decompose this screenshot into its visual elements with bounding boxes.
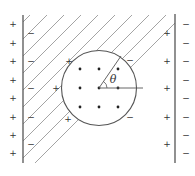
outer-right-charge: − — [182, 112, 190, 122]
outer-left-charge: + — [9, 38, 17, 48]
cavity-surface-charge: + — [52, 83, 60, 93]
field-point — [98, 106, 101, 109]
angle-arc — [104, 81, 108, 88]
inner-right-charge: + — [163, 28, 171, 38]
outer-right-charge: − — [182, 38, 190, 48]
cavity-surface-charge: − — [126, 55, 134, 65]
outer-left-charge: + — [9, 112, 17, 122]
outer-right-charge: − — [182, 148, 190, 158]
hatch-line — [0, 15, 132, 163]
outer-left-charge: + — [9, 148, 17, 158]
hatch-line — [18, 15, 166, 163]
field-point — [79, 106, 82, 109]
inner-left-charge: − — [27, 28, 35, 38]
inner-right-charge: + — [163, 112, 171, 122]
cavity-surface-charge: + — [65, 56, 73, 66]
outer-right-charge: − — [182, 93, 190, 103]
outer-right-charge: − — [182, 19, 190, 29]
inner-right-charge: + — [163, 139, 171, 149]
field-point — [117, 68, 120, 71]
outer-left-charge: + — [9, 93, 17, 103]
cavity-surface-charge: + — [64, 114, 72, 124]
outer-right-charge: − — [182, 130, 190, 140]
outer-left-charge: + — [9, 75, 17, 85]
outer-right-charge: − — [182, 75, 190, 85]
inner-left-charge: − — [27, 112, 35, 122]
inner-right-charge: + — [163, 56, 171, 66]
field-point — [117, 106, 120, 109]
inner-left-charge: − — [27, 83, 35, 93]
theta-label: θ — [110, 73, 117, 86]
outer-left-charge: + — [9, 19, 17, 29]
cavity-surface-charge: − — [126, 112, 134, 122]
outer-right-charge: − — [182, 56, 190, 66]
cavity-field-diagram: θ ++++++++−−−−−−−−−−−−−++++++++−− — [0, 0, 195, 176]
field-point — [98, 68, 101, 71]
inner-right-charge: + — [163, 83, 171, 93]
inner-left-charge: − — [27, 56, 35, 66]
field-point — [79, 87, 82, 90]
outer-left-charge: + — [9, 130, 17, 140]
field-point — [79, 68, 82, 71]
inner-left-charge: − — [27, 139, 35, 149]
outer-left-charge: + — [9, 56, 17, 66]
